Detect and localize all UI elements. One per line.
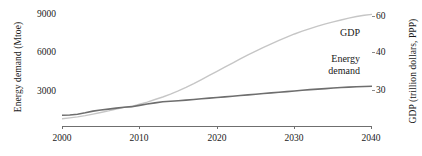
x-tick-label-2010: 2010: [119, 133, 159, 143]
series-label-energy-line2: demand: [300, 65, 360, 77]
x-tick-mark-2040: [371, 126, 372, 129]
y-tick-label-right-40: 40: [376, 47, 400, 57]
y-tick-label-right-60: 60: [376, 11, 400, 21]
x-tick-label-2000: 2000: [42, 133, 82, 143]
x-tick-mark-2030: [294, 126, 295, 129]
y-tick-label-left-3000: 3000: [22, 86, 56, 96]
series-label-energy-demand: Energy demand: [300, 53, 360, 76]
y-tick-mark-right-60: [372, 16, 375, 17]
series-label-gdp: GDP: [316, 27, 360, 39]
y-tick-mark-right-40: [372, 52, 375, 53]
x-tick-mark-2000: [62, 126, 63, 129]
energy-gdp-line-chart: Energy demand (Mtoe) GDP (trillion dolla…: [0, 0, 422, 156]
x-tick-mark-2010: [139, 126, 140, 129]
series-label-energy-line1: Energy: [300, 53, 360, 65]
x-tick-mark-2020: [217, 126, 218, 129]
x-tick-label-2030: 2030: [274, 133, 314, 143]
y-tick-label-left-6000: 6000: [22, 47, 56, 57]
y-axis-right-title: GDP (trillion dollars, PPP): [408, 6, 418, 136]
x-tick-label-2020: 2020: [197, 133, 237, 143]
x-tick-label-2040: 2040: [351, 133, 391, 143]
y-tick-label-right-30: 30: [376, 85, 400, 95]
y-tick-label-left-9000: 9000: [22, 9, 56, 19]
y-tick-mark-right-30: [372, 90, 375, 91]
y-axis-left-title: Energy demand (Mtoe): [13, 11, 23, 123]
